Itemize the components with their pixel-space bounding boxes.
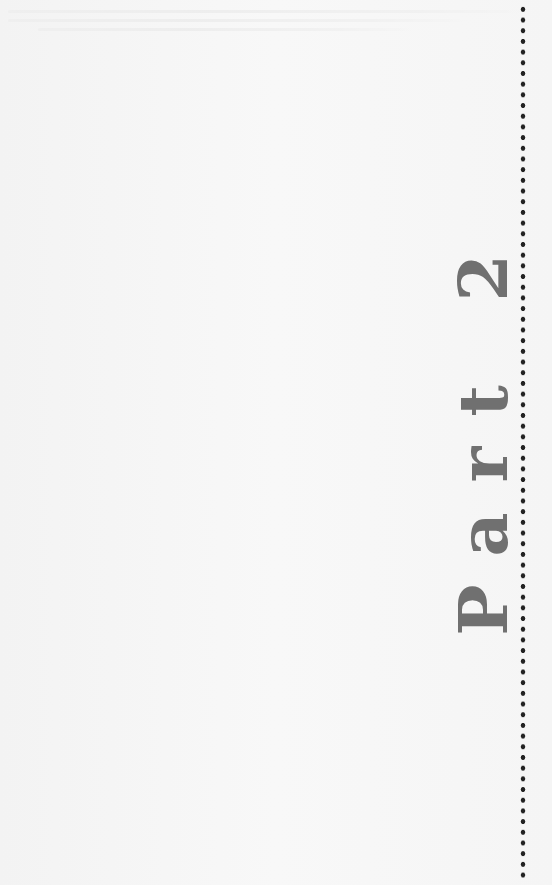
bleed-through-line <box>8 19 466 22</box>
part-title: Part 2 <box>449 224 517 636</box>
bleed-through-line <box>38 28 412 31</box>
dotted-rule <box>520 4 526 880</box>
bleed-through-line <box>8 10 528 13</box>
bleed-through-text <box>8 4 528 38</box>
